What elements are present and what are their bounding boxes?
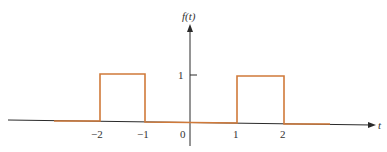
xtick-label-neg2: −2 — [91, 128, 103, 140]
signal-f-of-t — [54, 74, 330, 124]
xtick-label-neg1: −1 — [137, 128, 149, 140]
x-axis-label: t — [378, 119, 382, 131]
xtick-label-2: 2 — [280, 128, 286, 140]
pulse-train-plot: f(t) t 1 −2 −1 0 1 2 — [0, 0, 387, 152]
x-axis-arrow-icon — [368, 122, 376, 128]
y-axis-arrow-icon — [187, 24, 193, 32]
y-axis-label: f(t) — [182, 10, 196, 23]
xtick-label-0: 0 — [180, 128, 186, 140]
xtick-label-1: 1 — [233, 128, 239, 140]
ytick-label-1: 1 — [178, 69, 184, 81]
